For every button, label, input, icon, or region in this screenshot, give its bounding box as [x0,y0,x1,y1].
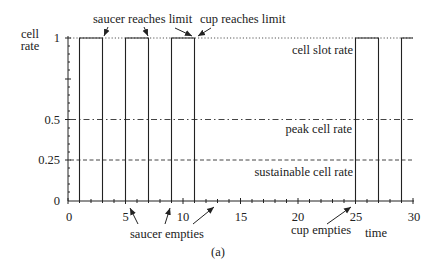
x-tick-20: 20 [292,210,305,224]
x-tick-5: 5 [122,210,128,224]
x-tick-25: 25 [350,210,363,224]
cell-slot-rate-label: cell slot rate [292,43,354,57]
cup-empties-label: cup empties [291,223,351,237]
y-axis-label-line2: rate [21,39,40,53]
chart: 1 0.5 0.25 0 cell rate 0 5 10 15 20 25 3… [0,0,441,273]
sustainable-cell-rate-label: sustainable cell rate [254,165,353,179]
x-axis-label: time [365,226,388,240]
axes [68,36,414,201]
x-tick-15: 15 [235,210,248,224]
saucer-empties-label: saucer empties [130,227,204,241]
y-tick-0.5: 0.5 [44,113,60,127]
x-tick-10: 10 [177,210,190,224]
x-tick-0: 0 [66,210,72,224]
y-tick-0.25: 0.25 [38,153,60,167]
figure-caption: (a) [211,245,225,259]
x-tick-30: 30 [408,210,421,224]
saucer-reaches-limit-label: saucer reaches limit [93,12,193,26]
y-tick-1: 1 [54,31,60,45]
peak-cell-rate-label: peak cell rate [285,122,352,136]
cup-reaches-limit-label: cup reaches limit [200,12,286,26]
y-tick-0: 0 [54,194,60,208]
